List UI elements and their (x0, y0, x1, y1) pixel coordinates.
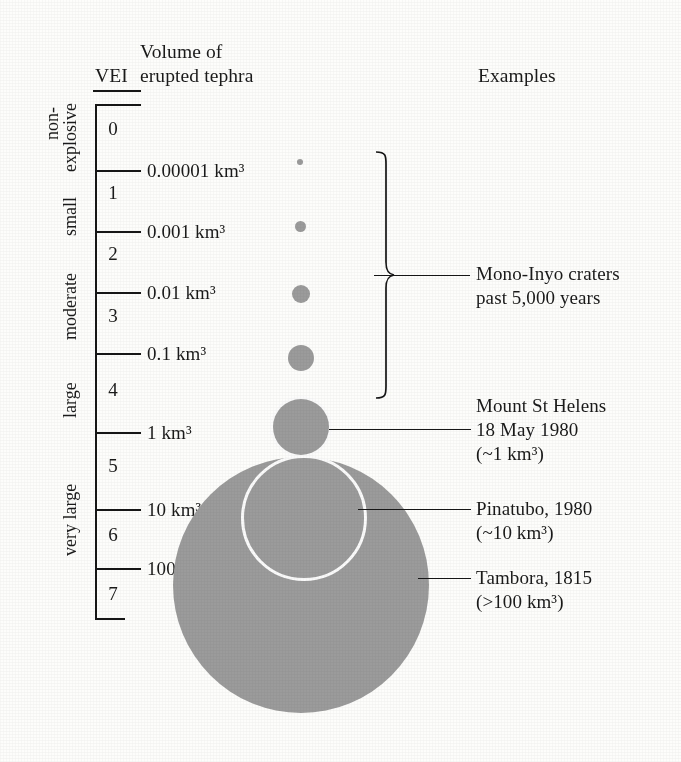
leader-line-mount-st-helens (329, 429, 471, 430)
vei-value-7: 7 (100, 583, 126, 605)
volume-label-0-01: 0.01 km³ (147, 281, 216, 304)
vei-value-3: 3 (100, 305, 126, 327)
bubble-0-01-km3 (292, 285, 310, 303)
leader-line-tambora (418, 578, 471, 579)
vei-tick-4-5 (95, 432, 141, 434)
example-tambora-line2: (>100 km³) (476, 590, 564, 613)
vei-diagram: VEI Volume of erupted tephra Examples ex… (0, 0, 681, 762)
vei-tick-2-3 (95, 292, 141, 294)
severity-label-moderate: moderate (60, 273, 81, 340)
vei-value-1: 1 (100, 182, 126, 204)
vei-value-6: 6 (100, 524, 126, 546)
column-header-volume-line2: erupted tephra (140, 64, 253, 88)
vei-tick-1-2 (95, 231, 141, 233)
severity-label-small: small (60, 197, 81, 236)
bubble-1-km3 (273, 399, 329, 455)
severity-label-non-explosive-line2: explosive (60, 103, 81, 172)
column-header-vei: VEI (95, 64, 128, 88)
severity-label-large: large (60, 382, 81, 418)
bubble-0-1-km3 (288, 345, 314, 371)
bubble-0-00001-km3 (297, 159, 303, 165)
example-pinatubo-line2: (~10 km³) (476, 521, 554, 544)
volume-label-0-001: 0.001 km³ (147, 220, 225, 243)
vei-tick-5-6 (95, 509, 141, 511)
example-mono-inyo-line2: past 5,000 years (476, 286, 601, 309)
example-mount-st-helens-line3: (~1 km³) (476, 442, 544, 465)
vei-value-0: 0 (100, 118, 126, 140)
vei-tick-0-1 (95, 170, 141, 172)
example-pinatubo-line1: Pinatubo, 1980 (476, 497, 592, 520)
volume-label-1: 1 km³ (147, 421, 192, 444)
vei-value-5: 5 (100, 455, 126, 477)
vei-axis-bottom-cap (95, 618, 125, 620)
severity-label-very-large: very large (60, 484, 81, 556)
volume-label-0-1: 0.1 km³ (147, 342, 206, 365)
example-mount-st-helens-line2: 18 May 1980 (476, 418, 578, 441)
column-header-volume-line1: Volume of (140, 40, 222, 64)
example-mono-inyo-line1: Mono-Inyo craters (476, 262, 620, 285)
leader-line-pinatubo (358, 509, 471, 510)
example-mount-st-helens-line1: Mount St Helens (476, 394, 606, 417)
bubble-10-km3-ring (241, 455, 367, 581)
bubble-0-001-km3 (295, 221, 306, 232)
vei-header-rule (93, 90, 141, 92)
example-tambora-line1: Tambora, 1815 (476, 566, 592, 589)
volume-label-0-00001: 0.00001 km³ (147, 159, 245, 182)
vei-axis-top-cap (95, 104, 141, 106)
leader-line-mono-inyo (374, 275, 470, 276)
vei-value-2: 2 (100, 243, 126, 265)
column-header-examples: Examples (478, 64, 556, 88)
vei-axis-spine (95, 104, 97, 620)
vei-tick-3-4 (95, 353, 141, 355)
vei-tick-6-7 (95, 568, 141, 570)
vei-value-4: 4 (100, 379, 126, 401)
severity-label-non-explosive-line1: non- (42, 107, 63, 140)
